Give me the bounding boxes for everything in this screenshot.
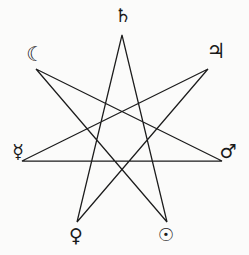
saturn-symbol: ♄ [110,6,136,25]
heptagram-star-path [22,35,222,222]
vertex-label-venus: ♀ [63,226,89,245]
venus-symbol: ♀ [63,226,89,245]
vertex-label-mars: ♂ [215,142,241,161]
vertex-label-moon: ☾ [22,44,48,64]
vertex-label-mercury: ☿ [5,142,31,161]
mars-symbol: ♂ [215,142,241,161]
vertex-label-saturn: ♄ [110,6,136,25]
sun-symbol: ☉ [153,226,179,244]
mercury-symbol: ☿ [5,142,31,161]
vertex-label-jupiter: ♃ [203,41,229,62]
vertex-label-sun: ☉ [153,226,179,244]
moon-symbol: ☾ [22,44,48,64]
heptagram-figure: ♄ ♃ ♂ ☉ ♀ ☿ ☾ [0,0,249,255]
jupiter-symbol: ♃ [203,41,229,62]
